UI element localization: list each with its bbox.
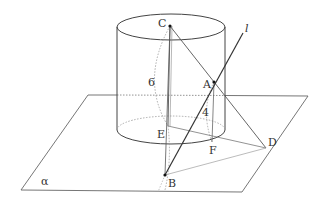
arc-left-dashed xyxy=(154,26,170,190)
label-length-4: 4 xyxy=(202,106,209,119)
point-C-dot xyxy=(168,24,171,27)
point-B-dot xyxy=(163,173,166,176)
label-C: C xyxy=(158,17,166,30)
segments xyxy=(158,26,266,192)
label-E: E xyxy=(157,128,165,141)
label-D: D xyxy=(268,136,277,149)
label-plane-alpha: α xyxy=(41,175,49,188)
label-A: A xyxy=(202,78,212,91)
label-line-l: l xyxy=(245,22,249,35)
label-F: F xyxy=(209,144,217,157)
geometry-diagram: C A B D E F 6 4 l α xyxy=(0,0,325,207)
label-B: B xyxy=(168,177,176,190)
point-A-dot xyxy=(212,80,215,83)
label-height-6: 6 xyxy=(148,76,155,89)
